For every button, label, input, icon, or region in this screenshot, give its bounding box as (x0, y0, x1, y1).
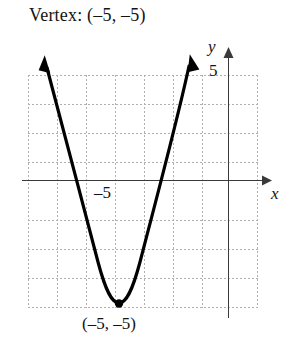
x-axis-label: x (271, 185, 279, 202)
x-axis-tick-label-negative-5: –5 (94, 184, 111, 201)
vertex-point-marker (115, 299, 123, 307)
y-axis-label: y (208, 38, 216, 55)
vertex-coordinate-label: (–5, –5) (82, 314, 136, 333)
y-axis (224, 47, 234, 318)
grid-lines (28, 75, 258, 308)
parabola-right-arrowhead (184, 53, 200, 72)
parabola-curve (39, 53, 200, 303)
parabola-left-arrowhead (39, 55, 55, 74)
y-axis-tick-label-5: 5 (209, 62, 218, 79)
y-axis-arrowhead (224, 47, 234, 58)
coordinate-plane (0, 0, 294, 342)
x-axis (22, 176, 272, 186)
graph-figure: Vertex: (–5, –5) (0, 0, 294, 342)
